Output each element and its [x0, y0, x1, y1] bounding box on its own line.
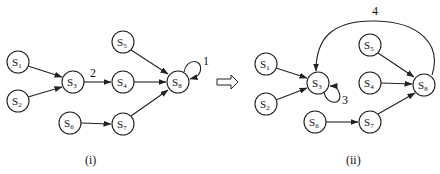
- transform-arrow-icon: [217, 75, 238, 89]
- node-s3: S3: [307, 72, 329, 94]
- edge-label-3: 3: [342, 93, 348, 107]
- edge-label-1: 1: [203, 54, 209, 68]
- node-s7: S7: [359, 111, 381, 133]
- panel-ii: 4 3 S1 S2 S3 S4 S5 S6 S7: [255, 4, 435, 167]
- node-s6: S6: [59, 112, 81, 134]
- edge-s4-s8: [381, 83, 412, 84]
- edge-s1-s3: [28, 66, 62, 77]
- node-s6: S6: [304, 111, 326, 133]
- node-s1: S1: [255, 53, 277, 75]
- edge-s7-s8: [378, 93, 415, 114]
- node-s7: S7: [112, 113, 134, 135]
- edge-s5-s8: [131, 50, 168, 74]
- node-s5: S5: [112, 31, 134, 53]
- state-graph-figure: 2 1 S1 S2 S3 S4 S5 S6: [0, 0, 440, 174]
- node-s4: S4: [112, 71, 134, 93]
- edge-label-4: 4: [372, 4, 378, 18]
- node-s2: S2: [255, 93, 277, 115]
- edge-s2-s3: [28, 87, 62, 97]
- node-s3: S3: [62, 71, 84, 93]
- node-s8: S8: [167, 71, 189, 93]
- caption-ii: (ii): [346, 153, 361, 167]
- node-s5: S5: [359, 34, 381, 56]
- edge-s5-s8: [378, 53, 414, 77]
- node-s4: S4: [359, 72, 381, 94]
- node-s1: S1: [7, 51, 29, 73]
- edge-label-2: 2: [90, 66, 96, 80]
- panel-i: 2 1 S1 S2 S3 S4 S5 S6: [7, 31, 209, 167]
- edge-s1-s3: [276, 68, 307, 78]
- edge-s6-s7: [81, 123, 111, 124]
- edge-s2-s3: [276, 88, 307, 100]
- edge-s7-s8: [131, 90, 168, 116]
- caption-i: (i): [85, 153, 96, 167]
- node-s2: S2: [7, 90, 29, 112]
- node-s8: S8: [413, 74, 435, 96]
